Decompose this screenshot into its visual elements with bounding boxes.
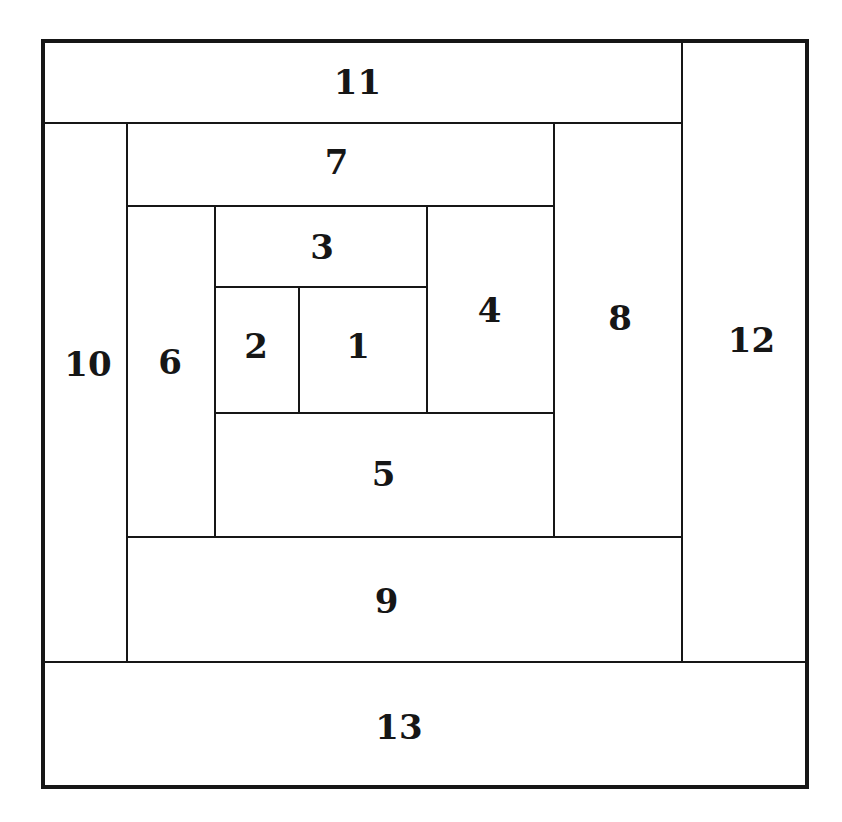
seam-line-vertical (681, 41, 684, 662)
patch-label: 6 (158, 345, 182, 379)
patch-label: 9 (375, 584, 399, 618)
patch-label: 7 (325, 145, 349, 179)
seam-line-vertical (214, 206, 217, 537)
patch-11: 11 (43, 41, 682, 123)
patch-4: 4 (427, 206, 554, 413)
seam-line-vertical (298, 287, 301, 413)
patch-label: 11 (334, 65, 381, 99)
patch-label: 8 (608, 301, 632, 335)
patch-5: 5 (215, 413, 554, 537)
patch-2: 2 (215, 287, 299, 413)
patch-label: 2 (244, 329, 268, 363)
seam-line-vertical (553, 123, 556, 537)
patch-10: 10 (43, 123, 127, 662)
seam-line-horizontal (127, 205, 554, 208)
patch-9: 9 (127, 537, 682, 662)
patch-7: 7 (127, 123, 554, 206)
patch-1: 1 (299, 287, 427, 413)
patch-label: 3 (310, 230, 334, 264)
seam-line-vertical (426, 206, 429, 413)
patch-label: 5 (372, 457, 396, 491)
patch-12: 12 (682, 41, 807, 662)
patch-8: 8 (554, 123, 682, 537)
seam-line-horizontal (43, 122, 682, 125)
patch-label: 13 (375, 710, 422, 744)
seam-line-horizontal (127, 536, 682, 539)
seam-line-horizontal (43, 661, 807, 664)
patch-label: 10 (64, 347, 111, 381)
seam-line-horizontal (215, 286, 427, 289)
patch-label: 4 (478, 293, 502, 327)
patch-label: 12 (728, 323, 775, 357)
patch-13: 13 (43, 662, 807, 787)
patch-label: 1 (346, 329, 370, 363)
patch-3: 3 (215, 206, 427, 287)
seam-line-horizontal (215, 412, 554, 415)
log-cabin-quilt-block-diagram: 12345678910111213 (0, 0, 842, 822)
seam-line-vertical (126, 123, 129, 662)
patch-6: 6 (127, 206, 215, 537)
